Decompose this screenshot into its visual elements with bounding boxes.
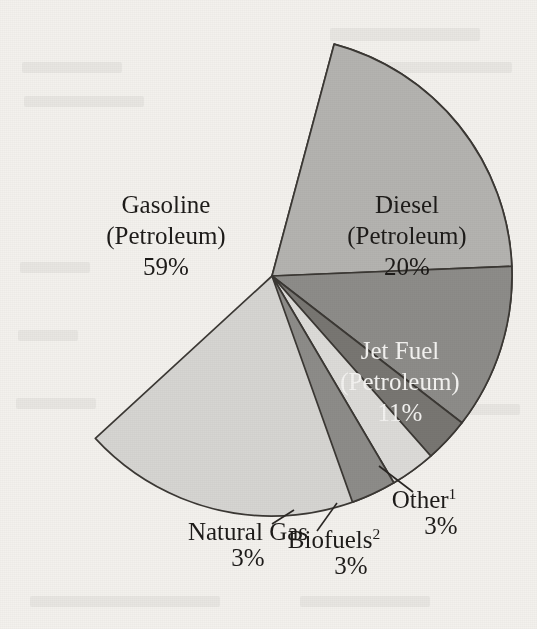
- pie-wedge-group: [95, 44, 512, 516]
- callout-label-other: Other1: [392, 485, 457, 513]
- callout-value-other: 3%: [424, 512, 457, 539]
- figure-page: Gasoline(Petroleum)59%Diesel(Petroleum)2…: [0, 0, 537, 629]
- pie-chart: Gasoline(Petroleum)59%Diesel(Petroleum)2…: [0, 0, 537, 629]
- callout-label-natural-gas: Natural Gas: [188, 518, 308, 545]
- footnote-marker-biofuels: 2: [372, 525, 380, 542]
- footnote-marker-other: 1: [449, 485, 457, 502]
- callout-value-natural-gas: 3%: [231, 544, 264, 571]
- callout-value-biofuels: 3%: [334, 552, 367, 579]
- slice-label-gasoline: Gasoline(Petroleum)59%: [106, 191, 225, 280]
